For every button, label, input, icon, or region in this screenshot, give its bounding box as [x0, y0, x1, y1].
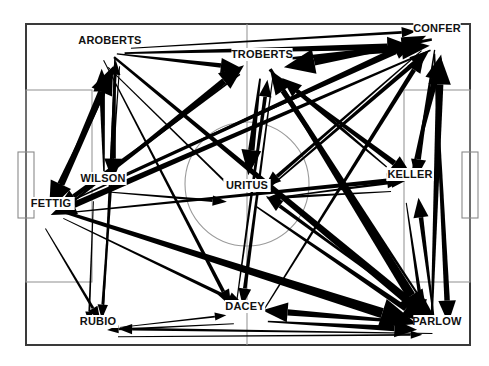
player-label-text: PARLOW [412, 315, 462, 327]
player-label[interactable]: RUBIO [78, 315, 119, 328]
player-label-text: KELLER [387, 168, 432, 180]
player-label[interactable]: PARLOW [412, 315, 462, 328]
pitch-svg: AROBERTSTROBERTSCONFERWILSONFETTIGURITUS… [0, 0, 489, 366]
player-label-text: WILSON [80, 172, 125, 184]
player-label-text: URITUS [226, 179, 268, 191]
player-label[interactable]: FETTIG [27, 197, 74, 210]
player-label-text: AROBERTS [78, 34, 141, 46]
player-label-text: FETTIG [31, 197, 71, 209]
player-label[interactable]: KELLER [386, 168, 433, 181]
diagram-page: UNC SPRING AROBERTSTROBERTSCONFERWILSONF… [0, 0, 489, 366]
pitch-diagram: AROBERTSTROBERTSCONFERWILSONFETTIGURITUS… [0, 0, 489, 366]
player-label[interactable]: AROBERTS [78, 34, 141, 47]
player-label-text: CONFER [413, 22, 461, 34]
player-label[interactable]: CONFER [413, 22, 461, 35]
player-label[interactable]: DACEY [225, 300, 266, 313]
player-label[interactable]: WILSON [79, 172, 126, 185]
player-label[interactable]: TROBERTS [231, 48, 293, 61]
player-label[interactable]: URITUS [223, 179, 270, 192]
player-label-text: TROBERTS [231, 48, 293, 60]
player-label-text: DACEY [225, 300, 265, 312]
player-label-text: RUBIO [80, 315, 117, 327]
